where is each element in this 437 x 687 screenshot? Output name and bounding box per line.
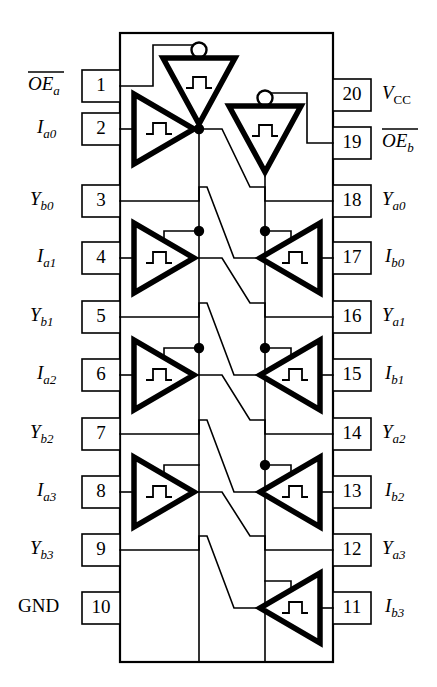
label-pin-3-text: Yb0 (30, 188, 54, 213)
left-buffer-group (134, 94, 194, 527)
right-pin-group: 20 19 18 17 16 15 (333, 79, 371, 624)
junction-dot-a0 (194, 124, 204, 134)
label-pin-7-text: Yb2 (30, 421, 54, 446)
buffer-a0[interactable] (134, 94, 194, 164)
pin-9[interactable]: 9 (82, 534, 120, 566)
pin-15-number: 15 (343, 363, 362, 384)
pin-20[interactable]: 20 (333, 79, 371, 111)
pin-5[interactable]: 5 (82, 301, 120, 333)
pin-17[interactable]: 17 (333, 242, 371, 274)
label-pin-10-text: GND (18, 595, 59, 616)
left-label-group: OEa Ia0 Yb0 Ia1 Yb1 Ia2 Yb2 Ia3 Yb3 GND (18, 72, 64, 616)
pin-20-number: 20 (343, 83, 362, 104)
label-pin-20-text: VCC (382, 82, 411, 107)
pin-11[interactable]: 11 (333, 592, 371, 624)
label-pin-19: OEb (382, 129, 418, 155)
pin-13[interactable]: 13 (333, 476, 371, 508)
pin-4-number: 4 (96, 246, 106, 267)
pin-1-number: 1 (96, 74, 106, 95)
pin-19-number: 19 (343, 131, 362, 152)
pin-15[interactable]: 15 (333, 359, 371, 391)
label-pin-13-text: Ib2 (384, 479, 405, 504)
pin-3-number: 3 (96, 189, 106, 210)
right-label-group: VCC OEb Ya0 Ib0 Ya1 Ib1 Ya2 Ib2 Ya3 Ib3 (382, 82, 418, 620)
junction-dot-group (194, 124, 270, 470)
pin-12[interactable]: 12 (333, 534, 371, 566)
pin-18-number: 18 (343, 189, 362, 210)
label-pin-2-text: Ia0 (36, 116, 57, 141)
pin-16-number: 16 (343, 305, 362, 326)
junction-dot-b2 (260, 460, 270, 470)
pin-7-number: 7 (96, 422, 106, 443)
label-pin-16-text: Ya1 (382, 304, 406, 329)
pin-6[interactable]: 6 (82, 359, 120, 391)
label-pin-17-text: Ib0 (384, 245, 405, 270)
pin-2[interactable]: 2 (82, 113, 120, 145)
pin-2-number: 2 (96, 117, 106, 138)
pin-5-number: 5 (96, 305, 106, 326)
label-pin-15-text: Ib1 (384, 362, 404, 387)
junction-dot-a2 (194, 343, 204, 353)
buffer-b3[interactable] (260, 573, 320, 643)
pin-8-number: 8 (96, 480, 106, 501)
label-pin-14-text: Ya2 (382, 421, 406, 446)
label-pin-12-text: Ya3 (382, 537, 406, 562)
pin-3[interactable]: 3 (82, 185, 120, 217)
pin-14[interactable]: 14 (333, 418, 371, 450)
junction-dot-a1 (194, 226, 204, 236)
pin-12-number: 12 (343, 538, 362, 559)
pin-1[interactable]: 1 (82, 70, 120, 102)
schematic-canvas: 1 2 3 4 5 6 7 (0, 0, 437, 687)
label-pin-1: OEa (28, 72, 64, 98)
junction-dot-b0 (260, 226, 270, 236)
pin-18[interactable]: 18 (333, 185, 371, 217)
pin-11-number: 11 (343, 596, 361, 617)
pin-10[interactable]: 10 (82, 592, 120, 624)
oe-b-inverter[interactable] (229, 91, 301, 173)
right-buffer-group (260, 223, 320, 643)
label-pin-4-text: Ia1 (36, 245, 56, 270)
pin-13-number: 13 (343, 480, 362, 501)
pin-8[interactable]: 8 (82, 476, 120, 508)
pin-7[interactable]: 7 (82, 418, 120, 450)
oe-a-inverter[interactable] (163, 43, 235, 125)
pin-10-number: 10 (92, 596, 111, 617)
label-pin-11-text: Ib3 (384, 595, 405, 620)
label-pin-5-text: Yb1 (30, 304, 54, 329)
pin-19[interactable]: 19 (333, 127, 371, 159)
left-pin-group: 1 2 3 4 5 6 7 (82, 70, 120, 624)
label-pin-18-text: Ya0 (382, 188, 406, 213)
label-pin-8-text: Ia3 (36, 479, 57, 504)
junction-dot-b1 (260, 343, 270, 353)
pin-17-number: 17 (343, 246, 362, 267)
label-pin-9-text: Yb3 (30, 537, 54, 562)
ic-pinout-diagram: 1 2 3 4 5 6 7 (0, 0, 437, 687)
pin-4[interactable]: 4 (82, 242, 120, 274)
label-pin-6-text: Ia2 (36, 362, 57, 387)
label-pin-19-text: OEb (382, 130, 414, 155)
pin-9-number: 9 (96, 538, 106, 559)
pin-16[interactable]: 16 (333, 301, 371, 333)
pin-6-number: 6 (96, 363, 106, 384)
wire-out-b3-to-pin9 (120, 536, 262, 608)
label-pin-1-text: OEa (28, 73, 60, 98)
pin-14-number: 14 (343, 422, 363, 443)
